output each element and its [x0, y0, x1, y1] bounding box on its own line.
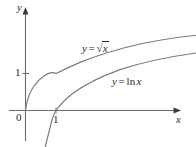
- y-axis-label: y: [17, 3, 22, 14]
- sqrt-annotation-radicand: x: [102, 41, 109, 54]
- plot-canvas: [0, 0, 196, 147]
- origin-tick-label: 0: [16, 112, 22, 123]
- ln-curve-annotation: y=lnx: [112, 76, 142, 87]
- radical-sign-icon: √x: [97, 43, 109, 54]
- sqrt-curve-annotation: y=√x: [82, 43, 109, 54]
- ln-curve: [45, 53, 196, 147]
- y-axis-arrowhead: [23, 7, 29, 15]
- x-axis-arrowhead: [174, 108, 182, 114]
- ln-function-name: ln: [127, 75, 137, 87]
- ln-annotation-equals: =: [117, 75, 126, 87]
- y-tick-label-1: 1: [15, 67, 21, 78]
- sqrt-annotation-equals: =: [87, 42, 96, 54]
- x-axis-label: x: [176, 115, 181, 126]
- ln-annotation-arg: x: [136, 75, 141, 87]
- function-graph-figure: y x 0 1 1 y=√x y=lnx: [0, 0, 196, 147]
- x-tick-label-1: 1: [53, 114, 59, 125]
